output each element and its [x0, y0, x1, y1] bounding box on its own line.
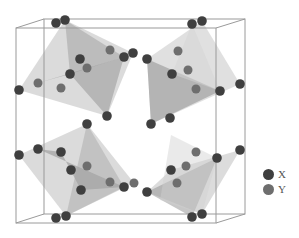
- y-atom: [106, 46, 115, 55]
- x-atom: [60, 15, 70, 25]
- x-atom: [119, 52, 129, 62]
- box-edge: [16, 19, 44, 28]
- x-atom: [235, 145, 245, 155]
- x-atom: [102, 111, 112, 121]
- x-atom: [56, 147, 66, 157]
- crystal-structure-figure: [0, 0, 299, 238]
- x-atom: [187, 19, 197, 29]
- x-atom: [142, 54, 152, 64]
- x-atom: [61, 211, 71, 221]
- box-edge: [16, 214, 44, 223]
- x-atom: [215, 86, 225, 96]
- x-atom: [14, 85, 24, 95]
- y-atom: [57, 84, 66, 93]
- x-atom: [235, 79, 245, 89]
- x-atom: [142, 187, 152, 197]
- legend-item-y: Y: [263, 182, 297, 197]
- x-atom: [212, 153, 222, 163]
- box-edge: [216, 19, 245, 28]
- polyhedra: [19, 20, 240, 217]
- x-atom: [76, 185, 86, 195]
- legend-label-y: Y: [278, 184, 286, 195]
- legend-item-x: X: [263, 167, 297, 182]
- y-atom: [192, 85, 201, 94]
- x-atom: [166, 165, 176, 175]
- y-atom: [184, 66, 193, 75]
- y-atom: [83, 162, 92, 171]
- x-atom: [165, 113, 175, 123]
- x-atom: [14, 150, 24, 160]
- x-atom: [187, 212, 197, 222]
- y-atom-marker-icon: [263, 184, 274, 195]
- legend: X Y: [263, 167, 297, 197]
- x-atom: [51, 213, 61, 223]
- x-atom-marker-icon: [263, 169, 274, 180]
- y-atom: [182, 162, 191, 171]
- y-atom: [83, 64, 92, 73]
- y-atom: [34, 79, 43, 88]
- x-atom: [75, 54, 85, 64]
- y-atom: [174, 47, 183, 56]
- x-atom: [197, 16, 207, 26]
- x-atom: [65, 69, 75, 79]
- box-edge: [216, 214, 245, 223]
- x-atom: [51, 18, 61, 28]
- x-atom: [197, 209, 207, 219]
- x-atom: [82, 119, 92, 129]
- x-atom: [167, 69, 177, 79]
- y-atom: [130, 179, 139, 188]
- x-atom: [33, 144, 43, 154]
- y-atom: [173, 179, 182, 188]
- y-atom: [192, 148, 201, 157]
- x-atom: [66, 165, 76, 175]
- x-atom: [146, 119, 156, 129]
- legend-label-x: X: [278, 169, 286, 180]
- x-atom: [128, 48, 138, 58]
- y-atom: [106, 178, 115, 187]
- x-atom: [119, 182, 129, 192]
